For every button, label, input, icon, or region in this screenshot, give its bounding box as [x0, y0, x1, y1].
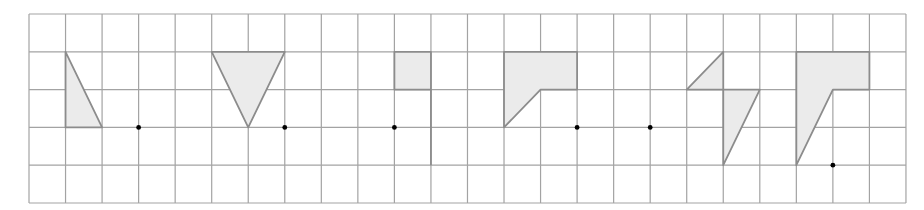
rotation-center-6 [830, 163, 835, 168]
rotation-center-5 [648, 125, 653, 130]
rotation-center-3 [392, 125, 397, 130]
rotation-center-2 [282, 125, 287, 130]
rotation-center-4 [575, 125, 580, 130]
grid-diagram [0, 0, 924, 210]
rotation-center-1 [136, 125, 141, 130]
figure-5a-small-triangle [687, 52, 724, 90]
figure-3-square [394, 52, 431, 90]
grid-lines [29, 14, 906, 203]
